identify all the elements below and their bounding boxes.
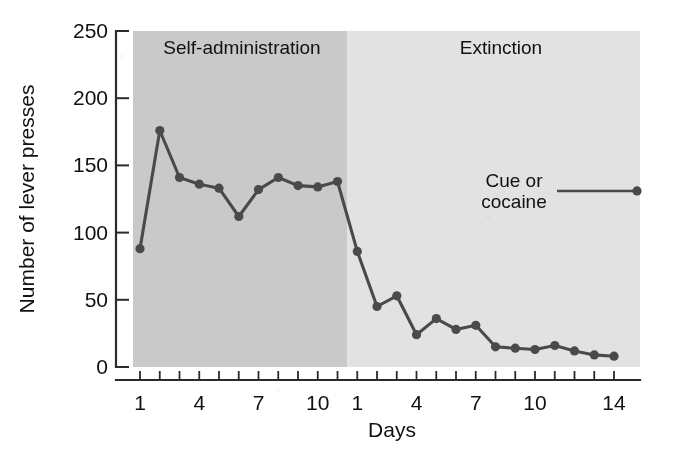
x-tick-label-sa: 10 bbox=[306, 391, 329, 414]
x-tick-group: 147101471014 bbox=[134, 371, 626, 414]
x-tick-label-sa: 7 bbox=[253, 391, 265, 414]
data-point bbox=[293, 181, 302, 190]
x-tick-label-sa: 4 bbox=[193, 391, 205, 414]
phase-label-self-administration: Self-administration bbox=[163, 37, 320, 58]
x-tick-label-ext: 14 bbox=[602, 391, 626, 414]
data-point bbox=[451, 325, 460, 334]
data-point bbox=[195, 180, 204, 189]
data-point bbox=[175, 173, 184, 182]
data-point bbox=[372, 302, 381, 311]
legend-marker bbox=[632, 186, 641, 195]
legend-label-line1: Cue or bbox=[485, 170, 543, 191]
y-tick-label: 100 bbox=[73, 221, 108, 244]
x-tick-label-sa: 1 bbox=[134, 391, 146, 414]
data-point bbox=[491, 342, 500, 351]
data-point bbox=[274, 173, 283, 182]
y-axis-title: Number of lever presses bbox=[15, 85, 38, 314]
data-point bbox=[155, 126, 164, 135]
data-point bbox=[313, 182, 322, 191]
phase-label-extinction: Extinction bbox=[460, 37, 542, 58]
data-point bbox=[471, 321, 480, 330]
data-point bbox=[234, 212, 243, 221]
x-axis-title: Days bbox=[368, 418, 416, 441]
data-point bbox=[550, 341, 559, 350]
y-tick-label: 150 bbox=[73, 153, 108, 176]
data-point bbox=[511, 344, 520, 353]
data-point bbox=[530, 345, 539, 354]
data-point bbox=[333, 177, 342, 186]
x-tick-label-ext: 10 bbox=[523, 391, 546, 414]
data-point bbox=[609, 352, 618, 361]
x-tick-label-ext: 1 bbox=[351, 391, 363, 414]
data-point bbox=[214, 184, 223, 193]
data-point bbox=[135, 244, 144, 253]
self-administration-band bbox=[133, 31, 347, 367]
x-tick-label-ext: 7 bbox=[470, 391, 482, 414]
data-point bbox=[254, 185, 263, 194]
data-point bbox=[392, 291, 401, 300]
data-point bbox=[412, 330, 421, 339]
data-point bbox=[570, 346, 579, 355]
legend-label-line2: cocaine bbox=[481, 191, 547, 212]
x-tick-label-ext: 4 bbox=[411, 391, 423, 414]
y-tick-group: 050100150200250 bbox=[73, 19, 129, 378]
data-point bbox=[353, 247, 362, 256]
y-tick-label: 0 bbox=[96, 355, 108, 378]
data-point bbox=[432, 314, 441, 323]
phase-shading-group bbox=[133, 31, 640, 367]
chart-canvas: Self-administration Extinction Cue or co… bbox=[0, 0, 678, 471]
y-tick-label: 50 bbox=[85, 288, 108, 311]
y-tick-label: 200 bbox=[73, 86, 108, 109]
lever-press-extinction-figure: Self-administration Extinction Cue or co… bbox=[0, 0, 678, 471]
y-tick-label: 250 bbox=[73, 19, 108, 42]
data-point bbox=[590, 350, 599, 359]
